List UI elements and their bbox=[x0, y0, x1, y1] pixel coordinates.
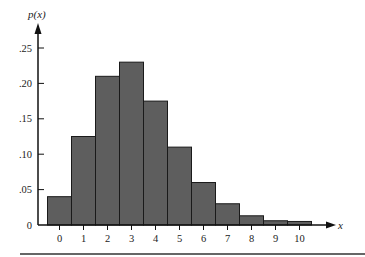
y-tick-label: .15 bbox=[19, 113, 32, 124]
y-tick-label: .20 bbox=[19, 78, 32, 89]
bar-8 bbox=[240, 216, 264, 225]
x-tick-label: 0 bbox=[57, 233, 62, 244]
bar-6 bbox=[192, 183, 216, 225]
x-tick-label: 10 bbox=[294, 233, 305, 244]
y-tick-label: 0 bbox=[27, 220, 32, 231]
bar-2 bbox=[96, 76, 120, 225]
x-tick-label: 5 bbox=[177, 233, 182, 244]
probability-histogram: 0.05.10.15.20.25 012345678910 p(x) x bbox=[0, 0, 365, 257]
bar-4 bbox=[144, 101, 168, 225]
x-tick-label: 8 bbox=[249, 233, 254, 244]
x-axis: 012345678910 bbox=[38, 222, 336, 245]
bar-7 bbox=[216, 204, 240, 225]
bar-3 bbox=[120, 62, 144, 225]
bar-5 bbox=[168, 147, 192, 225]
x-axis-label: x bbox=[337, 219, 343, 231]
bars bbox=[48, 62, 312, 225]
y-axis: 0.05.10.15.20.25 bbox=[19, 23, 44, 231]
x-tick-label: 3 bbox=[129, 233, 134, 244]
y-tick-label: .05 bbox=[19, 184, 32, 195]
x-tick-label: 2 bbox=[105, 233, 110, 244]
bar-0 bbox=[48, 197, 72, 225]
y-tick-label: .10 bbox=[19, 149, 32, 160]
x-tick-label: 6 bbox=[201, 233, 206, 244]
x-tick-label: 9 bbox=[273, 233, 278, 244]
y-axis-arrow-icon bbox=[35, 23, 42, 34]
x-tick-label: 1 bbox=[81, 233, 86, 244]
y-tick-label: .25 bbox=[19, 43, 32, 54]
x-tick-label: 7 bbox=[225, 233, 230, 244]
y-axis-label: p(x) bbox=[27, 8, 46, 21]
bar-1 bbox=[72, 137, 96, 226]
x-axis-arrow-icon bbox=[326, 222, 336, 229]
x-tick-label: 4 bbox=[153, 233, 159, 244]
